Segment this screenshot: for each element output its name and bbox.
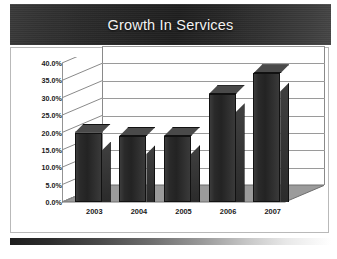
y-axis-tick-label: 40.0%	[20, 59, 62, 68]
bar-front-face	[209, 94, 236, 202]
bar-side-face	[102, 142, 111, 203]
y-axis-tick-label: 25.0%	[20, 111, 62, 120]
x-axis-tick-label: 2007	[264, 207, 280, 216]
x-axis-tick-label: 2006	[220, 207, 236, 216]
gridline	[102, 81, 325, 82]
gridline	[102, 46, 325, 47]
bar-front-face	[164, 136, 191, 202]
plot-area	[62, 57, 324, 217]
bar-chart: 0.0%5.0%10.0%15.0%20.0%25.0%30.0%35.0%40…	[14, 57, 324, 217]
x-axis-tick-label: 2004	[131, 207, 147, 216]
y-axis-tick-label: 35.0%	[20, 76, 62, 85]
slide-bottom-accent	[10, 238, 331, 245]
bar-column	[119, 136, 146, 202]
slide-title-band: Growth In Services	[10, 4, 331, 45]
y-axis-tick-label: 20.0%	[20, 128, 62, 137]
page-title: Growth In Services	[10, 17, 331, 33]
bar-column	[75, 133, 102, 203]
bar-front-face	[119, 136, 146, 202]
x-axis-tick-label: 2005	[175, 207, 191, 216]
bar-side-face	[280, 82, 289, 202]
bar-side-face	[236, 103, 245, 202]
y-axis: 0.0%5.0%10.0%15.0%20.0%25.0%30.0%35.0%40…	[14, 57, 62, 217]
bar-column	[253, 73, 280, 202]
bar-side-face	[146, 145, 155, 202]
y-axis-tick-label: 0.0%	[20, 198, 62, 207]
slide: Growth In Services 0.0%5.0%10.0%15.0%20.…	[0, 0, 337, 259]
y-axis-tick-label: 30.0%	[20, 93, 62, 102]
bar-front-face	[75, 133, 102, 203]
x-axis-tick-label: 2003	[86, 207, 102, 216]
bar-column	[209, 94, 236, 202]
bar-column	[164, 136, 191, 202]
bar-front-face	[253, 73, 280, 202]
bar-side-face	[191, 145, 200, 202]
y-axis-tick-label: 15.0%	[20, 145, 62, 154]
y-axis-tick-label: 10.0%	[20, 163, 62, 172]
gridline	[102, 63, 325, 64]
y-axis-tick-label: 5.0%	[20, 180, 62, 189]
